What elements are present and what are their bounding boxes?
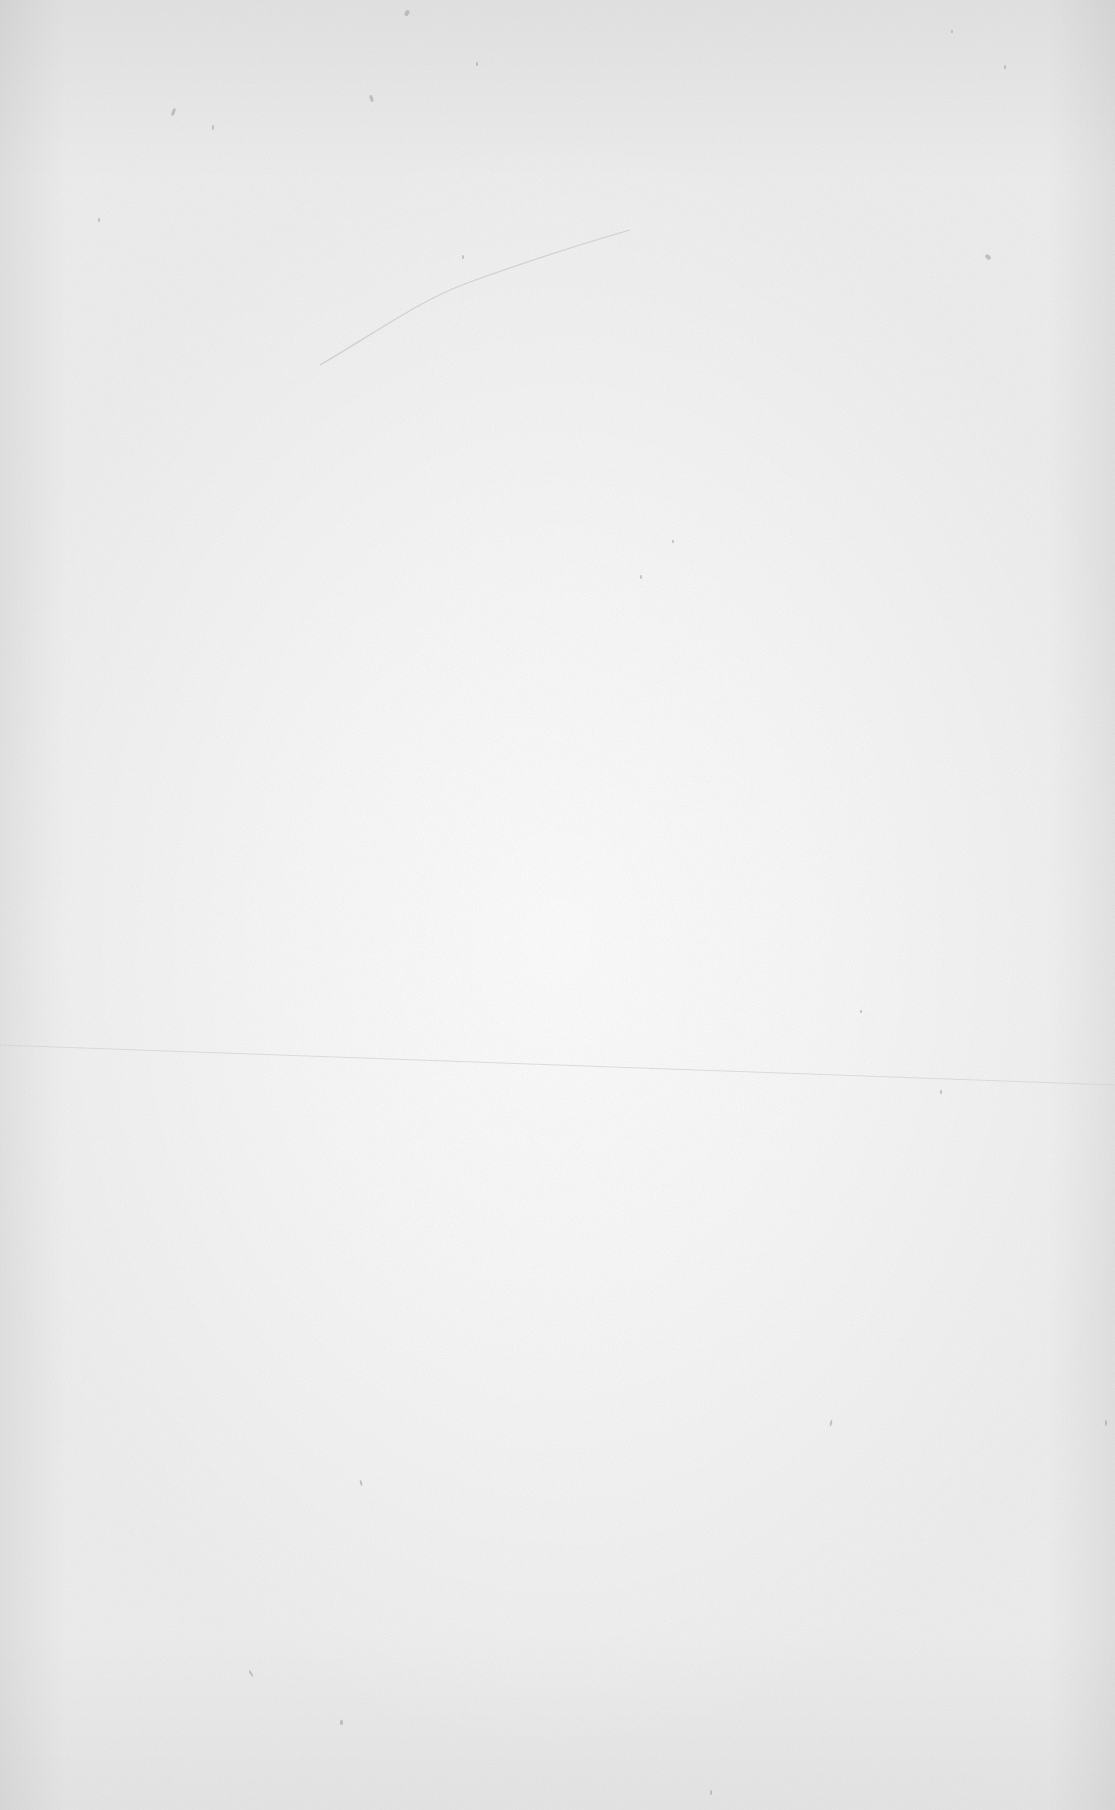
paper-speck [940, 1090, 942, 1094]
paper-speck [340, 1720, 343, 1725]
paper-speck [462, 255, 464, 259]
paper-speck [212, 125, 214, 130]
horizontal-fold [0, 1045, 1115, 1085]
paper-speck [860, 1010, 862, 1013]
paper-speck [404, 9, 410, 16]
paper-speck [248, 1670, 253, 1677]
paper-speck [829, 1420, 832, 1426]
paper-speck [369, 95, 374, 103]
paper-speck [171, 108, 177, 117]
paper-texture [0, 0, 1115, 1810]
paper-speck [1105, 1420, 1107, 1426]
paper-speck [359, 1480, 362, 1486]
paper-speck [98, 218, 100, 222]
paper-speck [951, 30, 953, 33]
paper-speck [672, 540, 674, 543]
paper-speck [710, 1790, 712, 1795]
paper-speck [1004, 65, 1006, 69]
paper-speck [640, 575, 642, 579]
blank-document-page [0, 0, 1115, 1810]
diagonal-crease [0, 0, 1115, 1810]
paper-speck [984, 254, 991, 261]
paper-speck [476, 62, 478, 66]
